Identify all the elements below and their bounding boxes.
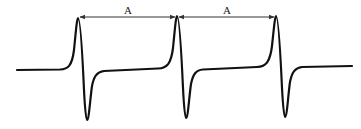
waveform-trace [17,16,352,120]
interval-label-1: A [124,4,132,16]
waveform-diagram: A A [0,0,361,129]
interval-label-2: A [223,4,231,16]
